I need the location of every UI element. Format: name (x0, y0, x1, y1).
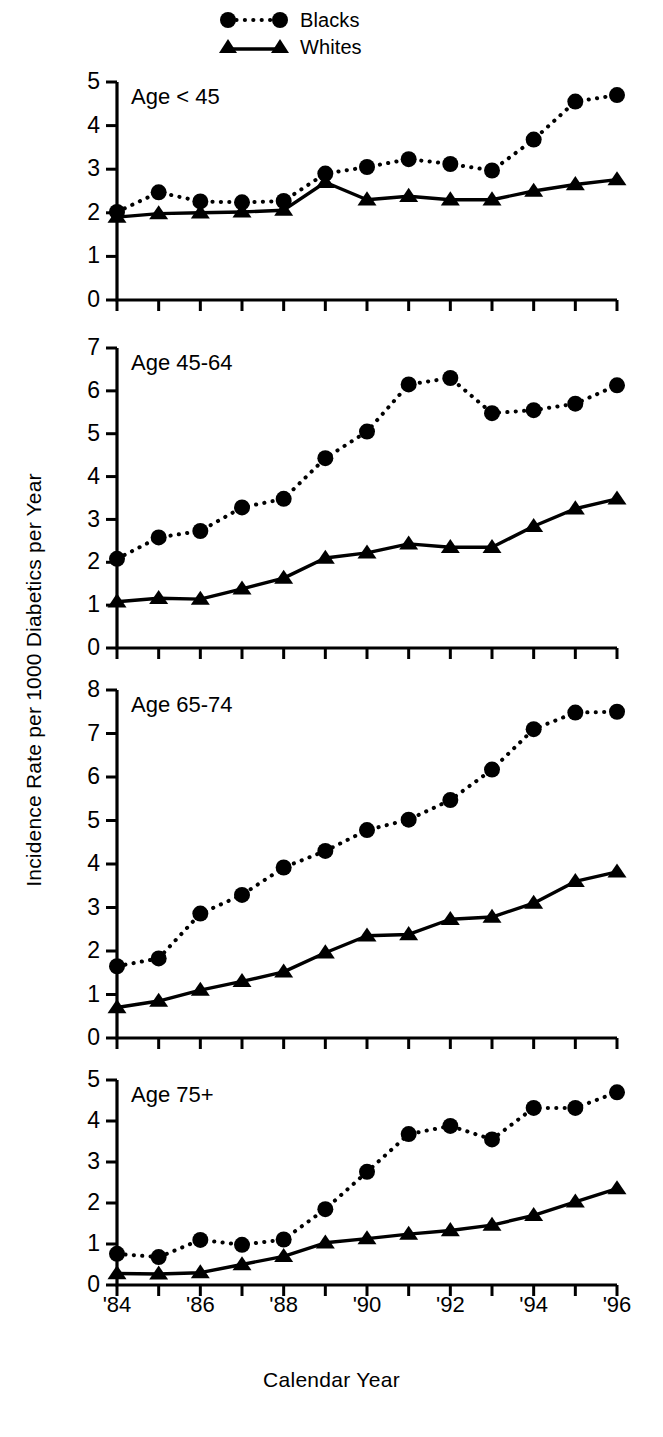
y-tick-label: 3 (87, 894, 100, 920)
data-point-blacks (567, 1100, 583, 1116)
data-point-blacks (526, 132, 542, 148)
y-tick-label: 4 (87, 112, 100, 138)
y-tick-label: 2 (87, 548, 100, 574)
data-point-blacks (192, 523, 208, 539)
data-point-blacks (359, 159, 375, 175)
panel-age-45-64: 01234567Age 45-64 (0, 340, 663, 660)
y-tick-label: 1 (87, 981, 100, 1007)
y-tick-label: 0 (87, 634, 100, 660)
x-tick-label: '86 (186, 1292, 215, 1317)
x-tick-label: '88 (269, 1292, 298, 1317)
x-tick-label: '94 (519, 1292, 548, 1317)
y-tick-label: 5 (87, 807, 100, 833)
data-point-whites (524, 895, 543, 909)
data-point-blacks (359, 822, 375, 838)
data-point-blacks (526, 1100, 542, 1116)
data-point-blacks (442, 792, 458, 808)
y-tick-label: 5 (87, 1066, 100, 1092)
data-point-blacks (609, 87, 625, 103)
axis-lines (117, 1080, 617, 1285)
legend-swatch-whites-solid-triangle (218, 34, 290, 60)
y-tick-label: 6 (87, 763, 100, 789)
legend-swatch-blacks-dotted-circle (218, 7, 290, 33)
data-point-blacks (567, 396, 583, 412)
data-point-whites (399, 535, 418, 549)
data-point-blacks (151, 529, 167, 545)
data-point-blacks (442, 370, 458, 386)
data-point-blacks (609, 1084, 625, 1100)
data-point-blacks (401, 151, 417, 167)
data-point-blacks (276, 491, 292, 507)
y-tick-label: 1 (87, 591, 100, 617)
data-point-blacks (609, 377, 625, 393)
data-point-whites (399, 188, 418, 202)
data-point-blacks (109, 1246, 125, 1262)
y-tick-label: 4 (87, 463, 100, 489)
y-tick-label: 1 (87, 242, 100, 268)
data-point-blacks (151, 950, 167, 966)
y-tick-label: 3 (87, 506, 100, 532)
data-point-blacks (317, 843, 333, 859)
data-point-blacks (567, 94, 583, 110)
data-point-blacks (442, 156, 458, 172)
data-point-blacks (192, 906, 208, 922)
y-tick-label: 5 (87, 68, 100, 94)
data-point-blacks (109, 551, 125, 567)
y-tick-label: 8 (87, 676, 100, 702)
data-point-blacks (484, 762, 500, 778)
data-point-blacks (359, 424, 375, 440)
legend-entry-whites: Whites (218, 33, 478, 60)
data-point-blacks (151, 1249, 167, 1265)
panel-plot-area: 01234567Age 45-64 (0, 340, 663, 660)
data-point-blacks (276, 1231, 292, 1247)
y-tick-label: 2 (87, 199, 100, 225)
x-axis-ticklabels: '84'86'88'90'92'94'96 (0, 1290, 663, 1360)
x-axis-title: Calendar Year (0, 1368, 663, 1392)
panel-age-75-plus: 012345Age 75+ (0, 1072, 663, 1297)
x-tick-label: '90 (353, 1292, 382, 1317)
data-point-whites (608, 1180, 627, 1194)
data-point-blacks (484, 163, 500, 179)
data-point-blacks (234, 887, 250, 903)
y-tick-label: 5 (87, 420, 100, 446)
data-point-whites (608, 863, 627, 877)
x-tick-label: '92 (436, 1292, 465, 1317)
data-point-blacks (276, 859, 292, 875)
data-point-blacks (401, 812, 417, 828)
y-tick-label: 2 (87, 937, 100, 963)
data-point-blacks (401, 376, 417, 392)
data-point-blacks (484, 405, 500, 421)
y-tick-label: 7 (87, 720, 100, 746)
legend-entry-blacks: Blacks (218, 6, 478, 33)
panel-plot-area: 012345Age 75+ (0, 1072, 663, 1297)
axis-lines (117, 348, 617, 648)
y-tick-label: 1 (87, 1230, 100, 1256)
panel-title: Age 45-64 (131, 350, 233, 375)
data-point-blacks (317, 1201, 333, 1217)
data-point-whites (608, 171, 627, 185)
x-tick-label: '84 (103, 1292, 132, 1317)
data-point-blacks (567, 705, 583, 721)
data-point-blacks (359, 1164, 375, 1180)
data-point-blacks (192, 1232, 208, 1248)
panel-age-65-74: 012345678Age 65-74 (0, 680, 663, 1050)
legend-label-whites: Whites (300, 37, 362, 57)
y-tick-label: 3 (87, 1148, 100, 1174)
axis-lines (117, 690, 617, 1038)
data-point-blacks (442, 1118, 458, 1134)
panel-title: Age 75+ (131, 1082, 214, 1107)
data-point-blacks (234, 499, 250, 515)
y-tick-label: 4 (87, 850, 100, 876)
legend-label-blacks: Blacks (300, 10, 360, 30)
y-tick-label: 7 (87, 334, 100, 360)
data-point-blacks (317, 450, 333, 466)
panel-plot-area: 012345678Age 65-74 (0, 680, 663, 1050)
data-point-blacks (109, 958, 125, 974)
y-tick-label: 4 (87, 1107, 100, 1133)
data-point-blacks (526, 721, 542, 737)
x-tick-label: '96 (603, 1292, 632, 1317)
data-point-whites (608, 490, 627, 504)
data-point-blacks (484, 1131, 500, 1147)
y-tick-label: 3 (87, 155, 100, 181)
chart-legend: Blacks Whites (218, 6, 478, 64)
